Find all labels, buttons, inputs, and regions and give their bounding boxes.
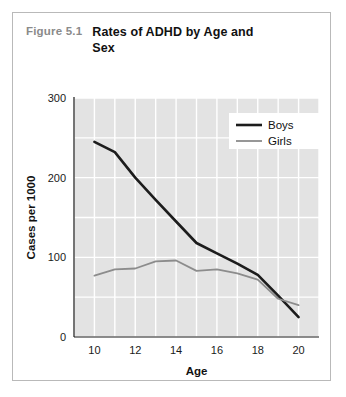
x-tick-label: 14 xyxy=(170,344,182,356)
legend-label-girls: Girls xyxy=(268,135,292,147)
chart-plot: 0100200300101214161820 AgeCases per 1000… xyxy=(13,68,332,380)
x-tick-label: 18 xyxy=(252,344,264,356)
figure-header: Figure 5.1 Rates of ADHD by Age and Sex xyxy=(26,25,320,56)
figure-title: Rates of ADHD by Age and Sex xyxy=(92,25,277,56)
y-axis-title: Cases per 1000 xyxy=(25,176,37,260)
y-tick-label: 100 xyxy=(48,251,66,263)
y-tick-label: 0 xyxy=(60,331,66,343)
x-tick-label: 12 xyxy=(129,344,141,356)
figure-number: Figure 5.1 xyxy=(26,25,82,37)
legend-label-boys: Boys xyxy=(268,119,294,131)
y-tick-label: 300 xyxy=(48,92,66,104)
x-tick-label: 16 xyxy=(211,344,223,356)
figure-card: Figure 5.1 Rates of ADHD by Age and Sex … xyxy=(12,12,331,381)
x-tick-label: 20 xyxy=(292,344,304,356)
x-tick-label: 10 xyxy=(88,344,100,356)
chart-legend: BoysGirls xyxy=(229,113,319,149)
adhd-line-chart: 0100200300101214161820 AgeCases per 1000… xyxy=(13,68,332,380)
x-axis-title: Age xyxy=(186,365,208,377)
y-tick-label: 200 xyxy=(48,172,66,184)
